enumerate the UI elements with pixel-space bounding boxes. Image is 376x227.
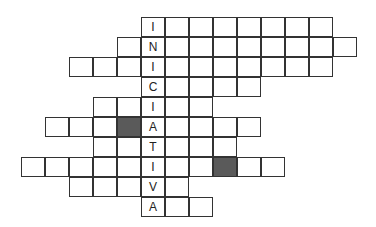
answer-cell[interactable]: [93, 57, 117, 77]
answer-cell[interactable]: [309, 57, 333, 77]
keyword-letter-cell: I: [141, 97, 165, 117]
answer-cell[interactable]: [117, 157, 141, 177]
answer-cell[interactable]: [189, 57, 213, 77]
answer-cell[interactable]: [285, 37, 309, 57]
answer-cell[interactable]: [117, 97, 141, 117]
answer-cell[interactable]: [237, 37, 261, 57]
answer-cell[interactable]: [237, 77, 261, 97]
answer-cell[interactable]: [213, 137, 237, 157]
answer-cell[interactable]: [165, 157, 189, 177]
answer-cell[interactable]: [213, 117, 237, 137]
answer-cell[interactable]: [165, 37, 189, 57]
answer-cell[interactable]: [189, 17, 213, 37]
answer-cell[interactable]: [213, 57, 237, 77]
answer-cell[interactable]: [165, 97, 189, 117]
answer-cell[interactable]: [45, 157, 69, 177]
answer-cell[interactable]: [165, 197, 189, 217]
answer-cell[interactable]: [93, 137, 117, 157]
answer-cell[interactable]: [165, 177, 189, 197]
answer-cell[interactable]: [261, 37, 285, 57]
answer-cell[interactable]: [165, 77, 189, 97]
blocked-cell: [117, 117, 141, 137]
answer-cell[interactable]: [237, 157, 261, 177]
keyword-letter-cell: A: [141, 117, 165, 137]
answer-cell[interactable]: [69, 177, 93, 197]
keyword-letter-cell: I: [141, 157, 165, 177]
answer-cell[interactable]: [165, 57, 189, 77]
answer-cell[interactable]: [165, 137, 189, 157]
answer-cell[interactable]: [309, 37, 333, 57]
answer-cell[interactable]: [213, 37, 237, 57]
answer-cell[interactable]: [69, 157, 93, 177]
answer-cell[interactable]: [189, 157, 213, 177]
crossword-grid: INICIATIVA: [0, 0, 376, 227]
answer-cell[interactable]: [189, 137, 213, 157]
answer-cell[interactable]: [237, 17, 261, 37]
answer-cell[interactable]: [213, 17, 237, 37]
answer-cell[interactable]: [21, 157, 45, 177]
answer-cell[interactable]: [117, 177, 141, 197]
answer-cell[interactable]: [93, 117, 117, 137]
answer-cell[interactable]: [189, 197, 213, 217]
keyword-letter-cell: I: [141, 57, 165, 77]
answer-cell[interactable]: [237, 117, 261, 137]
answer-cell[interactable]: [261, 157, 285, 177]
answer-cell[interactable]: [93, 177, 117, 197]
answer-cell[interactable]: [309, 17, 333, 37]
answer-cell[interactable]: [117, 137, 141, 157]
answer-cell[interactable]: [93, 97, 117, 117]
keyword-letter-cell: A: [141, 197, 165, 217]
answer-cell[interactable]: [189, 97, 213, 117]
keyword-letter-cell: T: [141, 137, 165, 157]
keyword-letter-cell: N: [141, 37, 165, 57]
answer-cell[interactable]: [189, 77, 213, 97]
answer-cell[interactable]: [117, 57, 141, 77]
answer-cell[interactable]: [333, 37, 357, 57]
answer-cell[interactable]: [165, 117, 189, 137]
answer-cell[interactable]: [261, 17, 285, 37]
answer-cell[interactable]: [189, 37, 213, 57]
answer-cell[interactable]: [237, 57, 261, 77]
answer-cell[interactable]: [285, 17, 309, 37]
answer-cell[interactable]: [261, 57, 285, 77]
blocked-cell: [213, 157, 237, 177]
answer-cell[interactable]: [93, 157, 117, 177]
keyword-letter-cell: C: [141, 77, 165, 97]
answer-cell[interactable]: [285, 57, 309, 77]
answer-cell[interactable]: [117, 37, 141, 57]
answer-cell[interactable]: [69, 57, 93, 77]
answer-cell[interactable]: [213, 77, 237, 97]
keyword-letter-cell: I: [141, 17, 165, 37]
answer-cell[interactable]: [189, 117, 213, 137]
answer-cell[interactable]: [69, 117, 93, 137]
keyword-letter-cell: V: [141, 177, 165, 197]
answer-cell[interactable]: [45, 117, 69, 137]
answer-cell[interactable]: [165, 17, 189, 37]
